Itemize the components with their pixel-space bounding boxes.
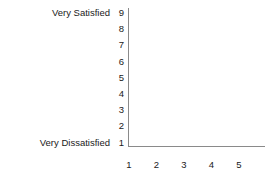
y-axis-high-anchor-label: Very Satisfied xyxy=(52,8,110,18)
empty-scatter-chart: 9 8 7 6 5 4 3 2 1 1 2 3 4 5 Very Satisfi… xyxy=(0,0,279,175)
plot-area xyxy=(129,8,265,146)
x-tick-label-5: 5 xyxy=(231,160,247,170)
x-axis-line xyxy=(128,146,265,147)
y-tick-label-5: 5 xyxy=(104,73,124,83)
y-tick-label-7: 7 xyxy=(104,40,124,50)
x-tick-label-2: 2 xyxy=(149,160,165,170)
x-tick-label-1: 1 xyxy=(121,160,137,170)
y-tick-label-4: 4 xyxy=(104,89,124,99)
x-tick-label-4: 4 xyxy=(204,160,220,170)
y-tick-label-8: 8 xyxy=(104,24,124,34)
y-axis-low-anchor-label: Very Dissatisfied xyxy=(40,138,110,148)
x-tick-label-3: 3 xyxy=(176,160,192,170)
y-tick-label-2: 2 xyxy=(104,121,124,131)
y-tick-label-3: 3 xyxy=(104,105,124,115)
y-tick-label-6: 6 xyxy=(104,57,124,67)
